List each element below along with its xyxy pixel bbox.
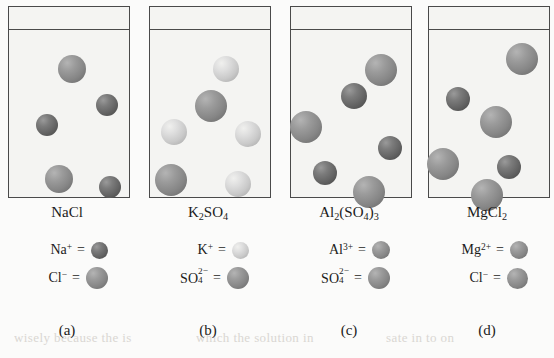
legend-row: Cl−= <box>0 264 134 292</box>
ion-sphere <box>378 136 402 160</box>
legend-ion-sphere <box>91 242 108 259</box>
panel-a: NaClNa+=Cl−=(a) <box>0 0 134 358</box>
panel-c: Al2(SO4)3Al3+=SO2−4=(c) <box>282 0 416 358</box>
beaker-a <box>8 6 130 198</box>
ion-sphere <box>155 164 187 196</box>
legend-equals-sign: = <box>496 242 504 258</box>
legend-equals-sign: = <box>218 242 226 258</box>
legend-a: Na+=Cl−= <box>0 236 134 292</box>
legend-ion-sphere <box>232 242 249 259</box>
compound-formula-c: Al2(SO4)3 <box>282 204 416 222</box>
legend-equals-sign: = <box>213 270 221 286</box>
ion-sphere <box>506 43 538 75</box>
compound-formula-b: K2SO4 <box>141 204 275 222</box>
legend-row: Na+= <box>0 236 134 264</box>
legend-row: Al3+= <box>282 236 416 264</box>
ion-sphere <box>497 155 521 179</box>
ion-sphere <box>365 54 397 86</box>
legend-ion-formula: Cl− <box>469 270 488 286</box>
panel-label-d: (d) <box>420 322 554 339</box>
ion-sphere <box>446 87 470 111</box>
legend-equals-sign: = <box>493 270 501 286</box>
beaker-rim <box>429 29 549 30</box>
legend-row: Cl−= <box>420 264 554 292</box>
legend-ion-sphere <box>86 267 108 289</box>
panel-d: MgCl2Mg2+=Cl−=(d) <box>420 0 554 358</box>
ion-sphere <box>341 83 367 109</box>
panel-label-b: (b) <box>141 322 275 339</box>
ion-sphere <box>225 171 251 197</box>
ion-sphere <box>58 55 86 83</box>
legend-row: Mg2+= <box>420 236 554 264</box>
legend-ion-sphere <box>227 267 249 289</box>
legend-ion-formula: Cl− <box>48 270 67 286</box>
ion-sphere <box>99 176 121 198</box>
ion-sphere <box>313 161 337 185</box>
ion-sphere <box>480 106 512 138</box>
panel-b: K2SO4K+=SO2−4=(b) <box>141 0 275 358</box>
beaker-d <box>428 6 550 198</box>
legend-ion-sphere <box>507 268 528 289</box>
legend-ion-sphere <box>368 267 390 289</box>
legend-equals-sign: = <box>354 270 362 286</box>
legend-ion-formula: Na+ <box>50 242 72 258</box>
legend-ion-sphere <box>372 241 390 259</box>
legend-ion-formula: Mg2+ <box>462 242 492 258</box>
beaker-c <box>290 6 412 198</box>
ion-sphere <box>427 148 459 180</box>
legend-equals-sign: = <box>358 242 366 258</box>
legend-ion-sphere <box>510 241 528 259</box>
ion-sphere <box>96 94 118 116</box>
beaker-rim <box>150 29 270 30</box>
panel-label-a: (a) <box>0 322 134 339</box>
ion-sphere <box>45 165 73 193</box>
beaker-b <box>149 6 271 198</box>
legend-row: SO2−4= <box>282 264 416 292</box>
legend-row: SO2−4= <box>141 264 275 292</box>
legend-ion-formula: K+ <box>198 242 214 258</box>
legend-ion-formula: SO2−4 <box>321 269 349 287</box>
compound-formula-d: MgCl2 <box>420 204 554 222</box>
legend-equals-sign: = <box>72 270 80 286</box>
ion-sphere <box>290 111 322 143</box>
legend-b: K+=SO2−4= <box>141 236 275 292</box>
beaker-rim <box>9 29 129 30</box>
legend-row: K+= <box>141 236 275 264</box>
beaker-rim <box>291 29 411 30</box>
ion-sphere <box>36 114 58 136</box>
panel-label-c: (c) <box>282 322 416 339</box>
legend-ion-formula: SO2−4 <box>180 269 208 287</box>
legend-c: Al3+=SO2−4= <box>282 236 416 292</box>
ion-sphere <box>161 119 187 145</box>
figure-root: wisely because the iswhich the solution … <box>0 0 554 358</box>
ion-sphere <box>213 56 239 82</box>
legend-ion-formula: Al3+ <box>329 242 353 258</box>
legend-equals-sign: = <box>77 242 85 258</box>
ion-sphere <box>235 121 261 147</box>
compound-formula-a: NaCl <box>0 204 134 221</box>
legend-d: Mg2+=Cl−= <box>420 236 554 292</box>
ion-sphere <box>195 90 227 122</box>
